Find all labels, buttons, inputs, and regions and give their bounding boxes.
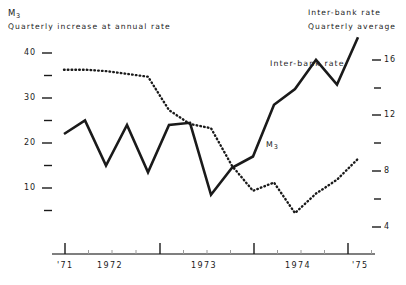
chart-figure: M3 Quarterly increase at annual rate Int… [0, 0, 406, 285]
plot-canvas [0, 0, 406, 285]
right-axis-ticks [372, 60, 381, 227]
x-axis [52, 243, 375, 254]
left-axis-ticks [42, 53, 52, 211]
series-line-m3 [64, 37, 358, 195]
